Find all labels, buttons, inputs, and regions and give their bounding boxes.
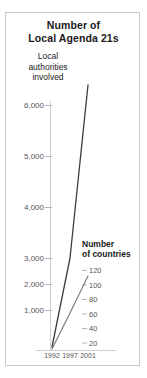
y2-tick-label-120: 120 bbox=[89, 267, 113, 275]
y2-tick-label-100: 100 bbox=[89, 282, 113, 290]
y-tick-label-5000: 5,000 bbox=[6, 153, 44, 161]
y2-tick-label-60: 60 bbox=[89, 311, 113, 319]
y2-axis-ticks bbox=[82, 271, 87, 344]
plot-area: 6,000 5,000 4,000 3,000 2,000 1,000 Numb… bbox=[6, 13, 141, 367]
y2-axis-label: Number of countries bbox=[82, 239, 140, 259]
y2-axis-label-line-2: of countries bbox=[82, 249, 140, 259]
y2-tick-label-80: 80 bbox=[89, 296, 113, 304]
y-tick-label-1000: 1,000 bbox=[6, 307, 44, 315]
y2-tick-label-20: 20 bbox=[89, 340, 113, 348]
y2-axis-label-line-1: Number bbox=[82, 239, 140, 249]
y-tick-label-3000: 3,000 bbox=[6, 255, 44, 263]
y-tick-label-4000: 4,000 bbox=[6, 204, 44, 212]
series-line-local-authorities bbox=[52, 85, 88, 347]
y2-tick-label-40: 40 bbox=[89, 325, 113, 333]
series-line-countries bbox=[52, 276, 88, 349]
y-tick-label-2000: 2,000 bbox=[6, 281, 44, 289]
chart-figure-card: Number of Local Agenda 21s Local authori… bbox=[5, 12, 140, 366]
x-tick-label-2001: 2001 bbox=[76, 352, 100, 359]
y-tick-label-6000: 6,000 bbox=[6, 102, 44, 110]
